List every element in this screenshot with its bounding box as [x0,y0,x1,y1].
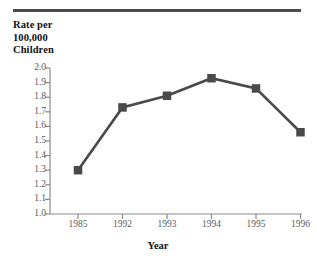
y-axis-tick-label: 1.7 [18,106,46,117]
y-axis-tick-label-text: 1.1 [20,193,46,203]
y-axis-tick-label-text: 1.6 [20,120,46,130]
data-point-marker [296,128,305,136]
y-axis-tick-label-text: 2.0 [20,62,46,72]
x-axis-tick-label: 1995 [234,219,278,229]
x-axis-tick-label: 1985 [56,219,100,229]
y-axis-tick-label: 1.6 [18,120,46,131]
y-axis-tick-label: 1.3 [18,164,46,175]
data-point-markers [74,74,305,174]
data-series-line [78,78,301,170]
y-axis-tick-label: 2.0 [18,62,46,73]
y-axis-tick-label: 1.5 [18,135,46,146]
y-axis-tick-label-text: 1.0 [20,208,46,218]
y-axis-tick-label-text: 1.9 [20,77,46,87]
y-axis-tick-label-text: 1.4 [20,150,46,160]
data-point-marker [118,103,127,112]
axes [50,68,302,214]
y-axis-tick-label: 1.4 [18,150,46,161]
y-axis-tick-label: 1.1 [18,193,46,204]
y-axis-tick-label-text: 1.3 [20,164,46,174]
x-axis-tick-label: 1992 [101,219,145,229]
y-axis-tick-label-text: 1.7 [20,106,46,116]
y-axis-tick-label: 1.8 [18,91,46,102]
data-point-marker [207,74,216,83]
y-axis-tick-label-text: 1.5 [20,135,46,145]
x-axis-tick-label: 1996 [279,219,317,229]
data-point-marker [163,91,172,100]
data-point-marker [252,84,261,93]
chart-figure: Rate per 100,000 Children 2.01.91.81.71.… [0,0,316,267]
data-point-marker [74,166,83,175]
y-axis-tick-label: 1.0 [18,208,46,219]
x-axis-tick-label: 1994 [190,219,234,229]
x-axis-tick-label: 1993 [145,219,189,229]
y-axis-tick-label-text: 1.2 [20,179,46,189]
x-axis-title: Year [0,240,316,251]
y-axis-tick-label: 1.9 [18,77,46,88]
y-axis-tick-label-text: 1.8 [20,91,46,101]
y-axis-tick-label: 1.2 [18,179,46,190]
